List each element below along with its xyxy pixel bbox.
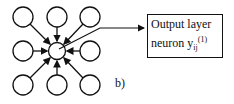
node-bottom [47,75,67,95]
box-line-1: Output layer [151,17,222,32]
node-top [47,7,67,27]
edge-bottom-right [64,58,83,78]
edge-bottom-left [30,58,50,78]
node-left [13,41,33,61]
output-neuron-label-box: Output layer neuron yij(1) [147,14,223,58]
node-right [80,41,100,61]
box-line-2: neuron yij(1) [151,32,222,55]
panel-label: b) [115,76,125,91]
edge-top-left [30,24,50,44]
output-pointer-line [59,28,144,49]
node-center [49,43,66,60]
